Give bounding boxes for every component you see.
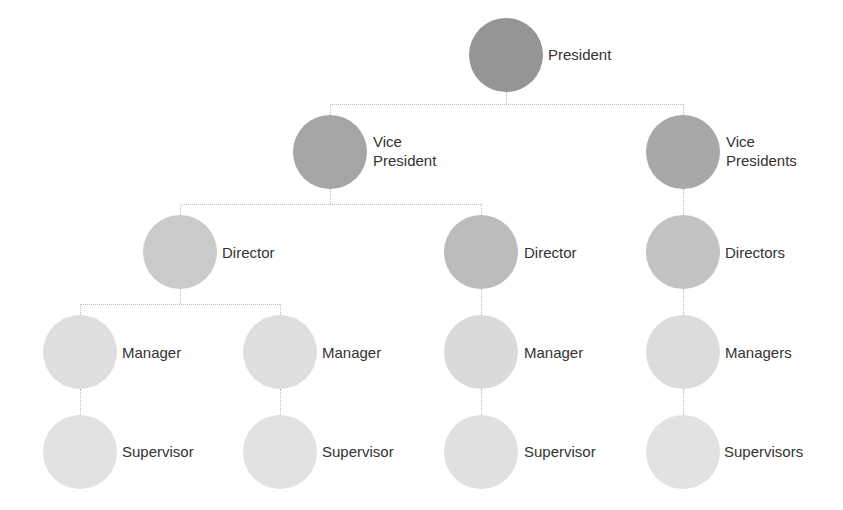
director-middle-label: Director [524, 243, 577, 262]
connector [330, 104, 683, 105]
managers-right-node[interactable] [646, 315, 720, 389]
directors-right-node[interactable] [646, 215, 720, 289]
supervisor-3-label: Supervisor [524, 442, 596, 461]
connector [481, 389, 482, 415]
vice-presidents-node[interactable] [646, 115, 720, 189]
connector [481, 289, 482, 315]
supervisor-2-node[interactable] [243, 415, 317, 489]
director-middle-node[interactable] [444, 215, 518, 289]
connector [80, 304, 280, 305]
connector [506, 92, 507, 104]
connector [330, 104, 331, 115]
vice-presidents-label: Vice Presidents [726, 132, 797, 170]
manager-3-node[interactable] [444, 315, 518, 389]
director-left-label: Director [222, 243, 275, 262]
manager-3-label: Manager [524, 343, 583, 362]
connector [280, 304, 281, 315]
supervisor-1-node[interactable] [43, 415, 117, 489]
connector [683, 189, 684, 215]
connector [330, 189, 331, 204]
connector [683, 104, 684, 115]
connector [80, 389, 81, 415]
supervisor-2-label: Supervisor [322, 442, 394, 461]
supervisor-1-label: Supervisor [122, 442, 194, 461]
connector [683, 389, 684, 415]
supervisors-right-node[interactable] [646, 415, 720, 489]
connector [180, 289, 181, 304]
connector [280, 389, 281, 415]
connector [481, 204, 482, 215]
connector [180, 204, 481, 205]
connector [683, 289, 684, 315]
manager-2-label: Manager [322, 343, 381, 362]
president-label: President [548, 45, 611, 64]
manager-1-label: Manager [122, 343, 181, 362]
vice-president-node[interactable] [293, 115, 367, 189]
president-node[interactable] [469, 18, 543, 92]
manager-2-node[interactable] [243, 315, 317, 389]
connector [80, 304, 81, 315]
supervisor-3-node[interactable] [444, 415, 518, 489]
director-left-node[interactable] [143, 215, 217, 289]
manager-1-node[interactable] [43, 315, 117, 389]
supervisors-right-label: Supervisors [724, 442, 803, 461]
managers-right-label: Managers [725, 343, 792, 362]
directors-right-label: Directors [725, 243, 785, 262]
connector [180, 204, 181, 215]
org-chart: President Vice President Vice Presidents… [0, 0, 843, 510]
vice-president-label: Vice President [373, 132, 436, 170]
